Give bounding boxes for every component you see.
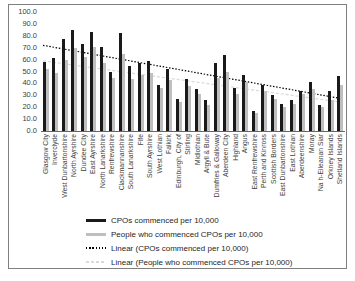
bars-pair	[309, 12, 315, 131]
people-bar	[312, 89, 315, 131]
people-bar	[169, 80, 172, 131]
bar-group: South Ayrshire	[146, 12, 156, 198]
bar-group: Dundee City	[79, 12, 89, 198]
bars-pair	[261, 12, 267, 131]
people-bar	[179, 102, 182, 131]
x-axis-label: Aberdeen City	[222, 134, 230, 177]
bar-group: Clackmannanshire	[117, 12, 127, 198]
people-bar	[207, 105, 210, 131]
bar-group: West Dunbartonshire	[60, 12, 70, 198]
bars-pair	[223, 12, 229, 131]
x-axis-label: Argyll & Bute	[203, 134, 211, 173]
bar-group: Midlothian	[193, 12, 203, 198]
legend-item-cpos: CPOs commenced per 10,000	[86, 213, 292, 227]
y-tick-label: 80.0	[9, 32, 39, 40]
people-bar	[340, 85, 343, 131]
x-axis-label: East Dunbartonshire	[279, 134, 287, 196]
bar-group: Dumfries & Galloway	[212, 12, 222, 198]
x-axis-label: South Ayrshire	[146, 134, 154, 178]
bars-pair	[280, 12, 286, 131]
x-axis-label: Angus	[241, 134, 249, 153]
people-bar	[302, 94, 305, 131]
y-axis: 100.090.080.070.060.050.040.030.020.010.…	[9, 12, 39, 131]
x-axis-label: Renfrewshire	[108, 134, 116, 174]
bar-group: Shetland Islands	[336, 12, 346, 198]
legend-item-linear-cpos: Linear (CPOs commenced per 10,000)	[86, 241, 292, 255]
y-tick-label: 20.0	[9, 103, 39, 111]
bars-pair	[299, 12, 305, 131]
gray-bar-swatch-icon	[86, 233, 106, 236]
legend-item-linear-people: Linear (People who commenced CPOs per 10…	[86, 255, 292, 269]
people-bar	[131, 79, 134, 131]
people-bar	[74, 48, 77, 131]
x-axis-label: East Renfrewshire	[251, 134, 259, 190]
chart-frame: 100.090.080.070.060.050.040.030.020.010.…	[8, 4, 347, 269]
bars-pair	[138, 12, 144, 131]
bars-pair	[185, 12, 191, 131]
bar-group: Falkirk	[165, 12, 175, 198]
bar-group: Fife	[136, 12, 146, 198]
bars-pair	[62, 12, 68, 131]
x-axis-label: Shetland Islands	[336, 134, 344, 184]
y-tick-label: 90.0	[9, 20, 39, 28]
people-bar	[112, 78, 115, 132]
bars-pair	[252, 12, 258, 131]
bars-pair	[43, 12, 49, 131]
people-bar	[236, 94, 239, 131]
people-bar	[274, 99, 277, 131]
y-tick-label: 100.0	[9, 8, 39, 16]
y-tick-label: 0.0	[9, 127, 39, 135]
bar-group: South Lanarkshire	[127, 12, 137, 198]
x-axis-label: North Lanarkshire	[99, 134, 107, 188]
bars-pair	[233, 12, 239, 131]
black-bar-swatch-icon	[86, 219, 106, 222]
bars-pair	[214, 12, 220, 131]
people-bar	[264, 91, 267, 132]
bar-group: East Ayrshire	[89, 12, 99, 198]
x-axis-label: Fife	[137, 134, 145, 145]
legend-label: Linear (CPOs commenced per 10,000)	[111, 244, 248, 253]
legend: CPOs commenced per 10,000 People who com…	[86, 213, 292, 269]
bars-pair	[147, 12, 153, 131]
people-bar	[160, 88, 163, 131]
bars-pair	[271, 12, 277, 131]
bars-pair	[328, 12, 334, 131]
y-tick-label: 70.0	[9, 44, 39, 52]
x-axis-label: Scottish Borders	[270, 134, 278, 184]
bars-pair	[119, 12, 125, 131]
x-axis-label: Orkney Islands	[327, 134, 335, 179]
bars-pair	[242, 12, 248, 131]
people-bar	[93, 47, 96, 132]
people-bar	[55, 73, 58, 131]
y-tick-label: 50.0	[9, 68, 39, 76]
bar-group: Stirling	[184, 12, 194, 198]
people-bar	[141, 75, 144, 131]
people-bar	[198, 94, 201, 131]
people-bar	[283, 107, 286, 131]
x-axis-label: Moray	[308, 134, 316, 153]
bars-pair	[128, 12, 134, 131]
x-axis-label: North Ayrshire	[70, 134, 78, 177]
people-bar	[150, 73, 153, 131]
dotted-line-swatch-icon	[86, 247, 106, 249]
bar-group: Renfrewshire	[108, 12, 118, 198]
bar-group: Perth and Kinross	[260, 12, 270, 198]
x-axis-label: East Ayrshire	[89, 134, 97, 174]
bar-group: Edinburgh, City of	[174, 12, 184, 198]
x-axis-label: Dundee City	[80, 134, 88, 171]
bars-pair	[337, 12, 343, 131]
bar-group: Orkney Islands	[326, 12, 336, 198]
people-bar	[122, 54, 125, 131]
bars-pair	[109, 12, 115, 131]
people-bar	[65, 60, 68, 131]
x-axis-label: Clackmannanshire	[118, 134, 126, 190]
people-bar	[331, 100, 334, 131]
x-axis-label: South Lanarkshire	[127, 134, 135, 189]
bar-group: North Lanarkshire	[98, 12, 108, 198]
people-bar	[245, 82, 248, 131]
people-bar	[188, 86, 191, 131]
people-bar	[84, 57, 87, 131]
bar-group: Argyll & Bute	[203, 12, 213, 198]
legend-label: CPOs commenced per 10,000	[111, 216, 219, 225]
bars-pair	[204, 12, 210, 131]
